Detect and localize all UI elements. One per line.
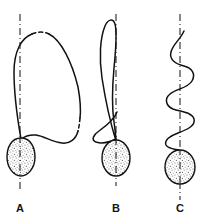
- panel-label-c: C: [170, 203, 190, 214]
- panel-a-filament-left: [14, 34, 32, 139]
- panel-a-filament-right: [49, 34, 80, 118]
- panel-label-b: B: [106, 203, 126, 214]
- panel-a-filament-apex-dashed: [32, 32, 49, 34]
- panel-c: [165, 14, 195, 200]
- panel-a-filament-right-dashed: [78, 118, 80, 131]
- scientific-diagram: [0, 0, 202, 223]
- panel-a: [7, 14, 80, 190]
- panel-label-a: A: [10, 203, 30, 214]
- panel-b: [93, 14, 130, 186]
- panel-a-body: [7, 138, 35, 176]
- figure-container: A B C: [0, 0, 202, 223]
